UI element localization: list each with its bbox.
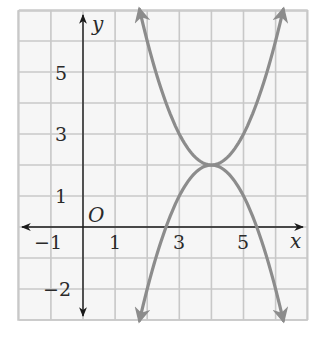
x-tick-neg1: −1	[34, 231, 62, 253]
y-tick-neg2: −2	[43, 278, 71, 300]
parabola-graph: y x O 5 3 1 −2 −1 1 3 5	[0, 0, 323, 352]
y-tick-3: 3	[55, 123, 67, 145]
y-tick-5: 5	[55, 62, 67, 84]
coordinate-plane: y x O 5 3 1 −2 −1 1 3 5	[0, 0, 323, 352]
y-tick-1: 1	[55, 185, 67, 207]
origin-label: O	[88, 203, 104, 227]
x-tick-1: 1	[109, 231, 121, 253]
x-axis-label: x	[290, 229, 301, 253]
y-axis-label: y	[91, 12, 104, 36]
x-tick-5: 5	[237, 231, 249, 253]
x-tick-3: 3	[173, 231, 185, 253]
